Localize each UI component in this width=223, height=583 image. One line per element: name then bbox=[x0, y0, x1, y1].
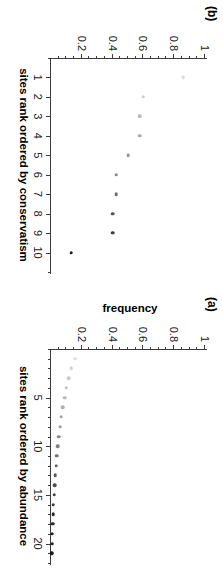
y-axis-tick-label: 1 bbox=[199, 0, 211, 51]
data-point bbox=[111, 212, 114, 215]
x-axis-minor-tick bbox=[48, 563, 50, 564]
y-axis-minor-tick bbox=[181, 347, 182, 349]
data-point bbox=[51, 513, 54, 516]
x-axis-tick bbox=[46, 544, 50, 545]
panel-a: (a) sites rank ordered by abundance freq… bbox=[0, 291, 223, 583]
y-axis-minor-tick bbox=[166, 56, 167, 58]
y-axis-minor-tick bbox=[181, 56, 182, 58]
panel-b: (b) sites rank ordered by conservatism 0… bbox=[0, 0, 223, 291]
data-point bbox=[126, 154, 129, 157]
x-axis-tick bbox=[46, 155, 50, 156]
x-axis-minor-tick bbox=[48, 417, 50, 418]
y-axis-minor-tick bbox=[158, 56, 159, 58]
data-point bbox=[54, 464, 57, 467]
y-axis-line bbox=[51, 349, 207, 350]
y-axis-minor-tick bbox=[135, 347, 136, 349]
data-point bbox=[53, 474, 56, 477]
x-axis-tick bbox=[46, 495, 50, 496]
panel-a-rotated-content: (a) sites rank ordered by abundance freq… bbox=[0, 291, 223, 582]
panel-a-plot-area: (a) sites rank ordered by abundance freq… bbox=[0, 291, 223, 582]
x-axis-tick bbox=[46, 446, 50, 447]
y-axis-tick bbox=[81, 54, 82, 58]
y-axis-tick bbox=[173, 54, 174, 58]
data-point bbox=[111, 231, 114, 234]
y-axis-tick-label: 1 bbox=[199, 291, 211, 342]
data-point bbox=[51, 532, 54, 535]
x-axis-minor-tick bbox=[48, 272, 50, 273]
x-axis-tick-label: 15 bbox=[32, 489, 44, 501]
x-axis-minor-tick bbox=[48, 378, 50, 379]
y-axis-minor-tick bbox=[58, 347, 59, 349]
x-axis-tick bbox=[46, 398, 50, 399]
x-axis-tick bbox=[46, 175, 50, 176]
panel-b-rotated-content: (b) sites rank ordered by conservatism 0… bbox=[0, 0, 223, 291]
data-point bbox=[142, 95, 145, 98]
panel-b-x-axis-title: sites rank ordered by conservatism bbox=[18, 68, 30, 262]
data-point bbox=[50, 542, 53, 545]
x-axis-tick-label: 8 bbox=[32, 211, 44, 217]
y-axis-minor-tick bbox=[89, 347, 90, 349]
x-axis-minor-tick bbox=[48, 534, 50, 535]
y-axis-minor-tick bbox=[127, 347, 128, 349]
y-axis-tick bbox=[112, 54, 113, 58]
y-axis-minor-tick bbox=[73, 347, 74, 349]
y-axis-minor-tick bbox=[166, 347, 167, 349]
panel-b-plot-area: (b) sites rank ordered by conservatism 0… bbox=[0, 0, 223, 291]
data-point bbox=[52, 503, 55, 506]
data-point bbox=[61, 406, 64, 409]
y-axis-tick-label: 0.6 bbox=[137, 0, 149, 51]
y-axis-minor-tick bbox=[196, 56, 197, 58]
x-axis-minor-tick bbox=[48, 466, 50, 467]
y-axis-tick bbox=[173, 345, 174, 349]
data-point bbox=[55, 454, 58, 457]
y-axis-tick-label: 0.4 bbox=[107, 291, 119, 342]
x-axis-tick-label: 5 bbox=[32, 152, 44, 158]
data-point bbox=[65, 386, 68, 389]
y-axis-minor-tick bbox=[196, 347, 197, 349]
data-point bbox=[138, 115, 141, 118]
y-axis-minor-tick bbox=[58, 56, 59, 58]
data-point bbox=[63, 396, 66, 399]
x-axis-tick-label: 9 bbox=[32, 230, 44, 236]
y-axis-minor-tick bbox=[135, 56, 136, 58]
y-axis-tick-label: 0.8 bbox=[168, 291, 180, 342]
x-axis-tick bbox=[46, 233, 50, 234]
panel-a-x-axis-title: sites rank ordered by abundance bbox=[18, 366, 30, 546]
x-axis-minor-tick bbox=[48, 475, 50, 476]
y-axis-tick-label: 0.2 bbox=[76, 0, 88, 51]
y-axis-minor-tick bbox=[96, 56, 97, 58]
x-axis-tick-label: 1 bbox=[32, 74, 44, 80]
y-axis-minor-tick bbox=[189, 56, 190, 58]
y-axis-tick bbox=[142, 345, 143, 349]
y-axis-minor-tick bbox=[119, 56, 120, 58]
x-axis-minor-tick bbox=[48, 349, 50, 350]
data-point bbox=[115, 192, 118, 195]
x-axis-minor-tick bbox=[48, 58, 50, 59]
x-axis-minor-tick bbox=[48, 359, 50, 360]
x-axis-tick bbox=[46, 77, 50, 78]
y-axis-tick-label: 0.8 bbox=[168, 0, 180, 51]
data-point bbox=[53, 483, 56, 486]
y-axis-line bbox=[51, 58, 207, 59]
data-point bbox=[67, 376, 70, 379]
x-axis-tick-label: 3 bbox=[32, 113, 44, 119]
data-point bbox=[57, 435, 60, 438]
x-axis-minor-tick bbox=[48, 368, 50, 369]
x-axis-tick-label: 20 bbox=[32, 537, 44, 549]
x-axis-tick-label: 2 bbox=[32, 94, 44, 100]
x-axis-minor-tick bbox=[48, 485, 50, 486]
y-axis-tick bbox=[204, 345, 205, 349]
y-axis-tick bbox=[81, 345, 82, 349]
y-axis-minor-tick bbox=[127, 56, 128, 58]
x-axis-minor-tick bbox=[48, 427, 50, 428]
data-point bbox=[138, 134, 141, 137]
data-point bbox=[74, 357, 77, 360]
y-axis-tick bbox=[112, 345, 113, 349]
x-axis-line bbox=[50, 58, 51, 274]
x-axis-tick-label: 4 bbox=[32, 133, 44, 139]
y-axis-minor-tick bbox=[104, 56, 105, 58]
data-point bbox=[50, 552, 53, 555]
x-axis-minor-tick bbox=[48, 456, 50, 457]
x-axis-minor-tick bbox=[48, 524, 50, 525]
y-axis-minor-tick bbox=[150, 56, 151, 58]
